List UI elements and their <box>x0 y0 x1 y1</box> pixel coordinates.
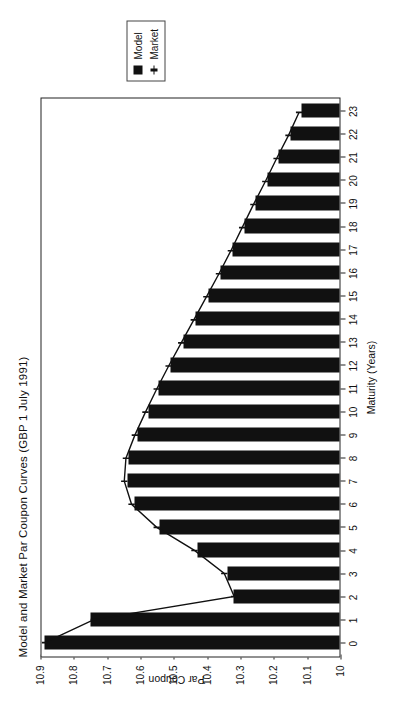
x-tick-mark-9 <box>340 434 345 435</box>
x-tick-label-12: 12 <box>347 360 358 371</box>
x-tick-label-3: 3 <box>347 571 358 577</box>
x-tick-mark-19 <box>340 202 345 203</box>
legend-item-market: Market <box>148 28 159 74</box>
x-tick-label-21: 21 <box>347 152 358 163</box>
x-tick-mark-0 <box>340 642 345 643</box>
x-tick-mark-3 <box>340 573 345 574</box>
plot-inner <box>41 98 339 656</box>
y-tick-label-10: 10 <box>335 665 346 676</box>
market-series-line <box>41 98 339 656</box>
x-tick-label-11: 11 <box>347 383 358 393</box>
chart-legend: Model Market <box>126 20 165 81</box>
y-tick-label-10.8: 10.8 <box>68 665 79 684</box>
legend-label-market: Market <box>148 28 159 59</box>
x-tick-label-6: 6 <box>347 502 358 508</box>
y-tick-label-10.2: 10.2 <box>268 665 279 684</box>
x-tick-label-0: 0 <box>347 640 358 646</box>
x-tick-mark-22 <box>340 133 345 134</box>
x-tick-label-13: 13 <box>347 337 358 348</box>
x-tick-label-18: 18 <box>347 221 358 232</box>
y-axis-title: Par Coupon <box>116 673 236 685</box>
x-tick-mark-20 <box>340 179 345 180</box>
chart-figure: Model and Market Par Coupon Curves (GBP … <box>0 0 405 709</box>
x-tick-label-2: 2 <box>347 594 358 600</box>
x-axis: 01234567891011121314151617181920212223 <box>340 97 366 657</box>
x-tick-mark-18 <box>340 226 345 227</box>
x-tick-label-22: 22 <box>347 128 358 139</box>
x-tick-mark-14 <box>340 318 345 319</box>
x-tick-mark-8 <box>340 457 345 458</box>
x-tick-label-8: 8 <box>347 455 358 461</box>
x-tick-mark-5 <box>340 526 345 527</box>
x-tick-mark-11 <box>340 388 345 389</box>
x-tick-mark-10 <box>340 411 345 412</box>
x-tick-mark-6 <box>340 503 345 504</box>
chart-page: Model and Market Par Coupon Curves (GBP … <box>0 0 405 709</box>
x-tick-mark-2 <box>340 596 345 597</box>
chart-title: Model and Market Par Coupon Curves (GBP … <box>16 356 28 657</box>
y-tick-label-10.1: 10.1 <box>301 665 312 684</box>
x-tick-label-14: 14 <box>347 314 358 325</box>
x-tick-mark-1 <box>340 619 345 620</box>
x-tick-label-17: 17 <box>347 244 358 255</box>
x-tick-label-15: 15 <box>347 290 358 301</box>
model-swatch-icon <box>133 65 142 74</box>
x-tick-label-9: 9 <box>347 432 358 438</box>
legend-label-model: Model <box>132 32 143 59</box>
x-tick-label-20: 20 <box>347 175 358 186</box>
x-tick-mark-23 <box>340 110 345 111</box>
x-tick-label-10: 10 <box>347 406 358 417</box>
x-tick-label-23: 23 <box>347 105 358 116</box>
x-tick-mark-7 <box>340 480 345 481</box>
x-tick-label-1: 1 <box>347 617 358 623</box>
x-tick-mark-12 <box>340 364 345 365</box>
x-tick-label-4: 4 <box>347 548 358 554</box>
market-swatch-icon <box>149 65 158 74</box>
x-tick-label-19: 19 <box>347 198 358 209</box>
legend-item-model: Model <box>132 28 143 74</box>
x-tick-mark-13 <box>340 341 345 342</box>
plot-area <box>40 97 340 657</box>
y-tick-label-10.9: 10.9 <box>35 665 46 684</box>
x-tick-label-16: 16 <box>347 267 358 278</box>
x-tick-mark-21 <box>340 156 345 157</box>
x-tick-mark-16 <box>340 272 345 273</box>
market-line-path <box>44 112 298 642</box>
x-axis-title: Maturity (Years) <box>364 97 376 657</box>
x-tick-mark-15 <box>340 295 345 296</box>
x-tick-mark-4 <box>340 550 345 551</box>
x-tick-label-5: 5 <box>347 525 358 531</box>
x-tick-mark-17 <box>340 249 345 250</box>
x-tick-label-7: 7 <box>347 478 358 484</box>
y-tick-label-10.7: 10.7 <box>101 665 112 684</box>
